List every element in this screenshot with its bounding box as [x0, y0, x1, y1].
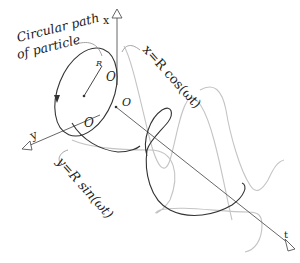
origin-label-3: O — [84, 116, 94, 130]
t-axis-label: t — [284, 229, 288, 240]
y-axis-arrowhead — [22, 141, 32, 150]
x-equation: x=R cos(ωt) — [140, 42, 205, 111]
helix-diagram: Circular path of particle x y t R O O O … — [0, 0, 300, 263]
x-axis-label: x — [103, 14, 110, 27]
center-point — [83, 95, 86, 98]
y-axis-label: y — [27, 127, 40, 143]
x-axis-arrowhead — [112, 9, 122, 18]
origin-label-1: O — [106, 70, 116, 84]
origin-point — [115, 106, 118, 109]
y-equation: y=R sin(ωt) — [53, 153, 117, 221]
t-axis — [116, 107, 288, 243]
origin-label-2: O — [122, 96, 131, 109]
radius-label: R — [95, 59, 102, 68]
projection-curve-upper-right — [200, 87, 284, 191]
radius-line — [84, 66, 102, 96]
t-axis-arrowhead — [285, 239, 295, 251]
diagram-svg: Circular path of particle x y t R O O O … — [0, 0, 300, 263]
